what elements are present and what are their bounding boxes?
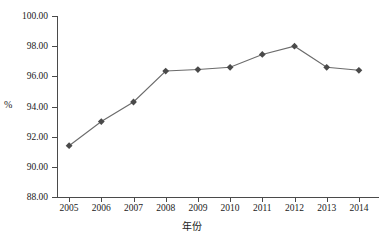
series-markers: [66, 43, 363, 149]
series-line: [69, 46, 359, 146]
data-point-marker: [323, 64, 330, 71]
data-point-marker: [291, 43, 298, 50]
chart-figure: % 88.0090.0092.0094.0096.0098.00100.00 2…: [0, 0, 384, 240]
x-axis-title: 年份: [0, 218, 384, 233]
data-point-marker: [259, 51, 266, 58]
series-layer: [0, 0, 384, 240]
data-point-marker: [356, 67, 363, 74]
data-point-marker: [195, 66, 202, 73]
data-point-marker: [227, 64, 234, 71]
